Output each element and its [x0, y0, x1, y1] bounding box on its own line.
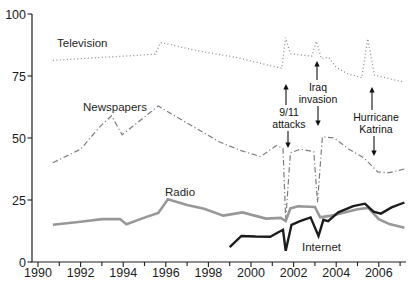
- x-tick-label: 1996: [152, 266, 180, 280]
- annotation-katrina-text: Katrina: [359, 123, 392, 135]
- x-tick-label: 1998: [194, 266, 222, 280]
- media-news-source-chart: 0255075100199019921994199619982000200220…: [0, 0, 410, 295]
- x-tick-label: 2002: [280, 266, 308, 280]
- annotation-katrina-text: Hurricane: [353, 111, 399, 123]
- internet-label: Internet: [302, 241, 342, 253]
- x-tick-label: 1992: [67, 266, 95, 280]
- x-tick-label: 2004: [322, 266, 350, 280]
- newspapers-line: [53, 106, 405, 220]
- television-label: Television: [57, 37, 108, 49]
- y-tick-label: 50: [12, 132, 26, 146]
- x-tick-label: 2006: [365, 266, 393, 280]
- axes-lines: [32, 14, 406, 262]
- annotation-911-up-arrow-head: [283, 84, 288, 90]
- annotation-iraq-down-arrow-head: [315, 121, 320, 127]
- annotation-911-text: attacks: [272, 118, 305, 130]
- x-tick-label: 1990: [24, 266, 52, 280]
- annotation-911-text: 9/11: [279, 106, 299, 118]
- annotation-iraq-text: Iraq: [309, 81, 327, 93]
- y-tick-label: 100: [5, 8, 26, 22]
- newspapers-label: Newspapers: [83, 101, 147, 113]
- annotation-iraq-text: invasion: [299, 93, 338, 105]
- x-tick-label: 1994: [109, 266, 137, 280]
- x-tick-label: 2000: [237, 266, 265, 280]
- y-tick-label: 25: [12, 194, 26, 208]
- annotation-911-down-arrow-head: [285, 143, 290, 149]
- annotation-katrina-down-arrow-head: [371, 151, 376, 157]
- annotation-katrina-up-arrow-head: [369, 87, 374, 93]
- y-tick-label: 75: [12, 70, 26, 84]
- annotation-iraq-up-arrow-head: [314, 61, 319, 67]
- radio-line: [53, 199, 405, 228]
- radio-label: Radio: [165, 186, 195, 198]
- chart-canvas: 0255075100199019921994199619982000200220…: [0, 0, 410, 295]
